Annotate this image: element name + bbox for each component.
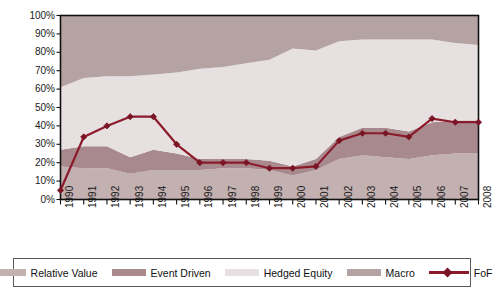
x-axis-tick-label: 1996 — [204, 185, 214, 207]
legend-swatch-icon — [347, 269, 381, 276]
x-axis-tick-label: 2008 — [483, 185, 493, 207]
legend-swatch-icon — [112, 269, 146, 276]
x-axis-tick-label: 2004 — [390, 185, 400, 207]
x-axis-tick-label: 1995 — [181, 185, 191, 207]
x-axis-tick-label: 1992 — [111, 185, 121, 207]
chart-legend: Relative ValueEvent DrivenHedged EquityM… — [13, 258, 471, 287]
legend-swatch-icon — [225, 269, 259, 276]
legend-swatch-icon — [0, 269, 26, 276]
x-axis-tick-label: 2006 — [437, 185, 447, 207]
x-axis-tick-label: 2002 — [344, 185, 354, 207]
x-axis-tick-label: 1991 — [88, 185, 98, 207]
x-axis-tick-label: 1997 — [228, 185, 238, 207]
legend-item-hedged-equity[interactable]: Hedged Equity — [225, 267, 333, 279]
legend-item-event-driven[interactable]: Event Driven — [112, 267, 211, 279]
x-axis-tick-label: 2003 — [367, 185, 377, 207]
legend-label: FoF — [474, 267, 493, 279]
legend-label: Event Driven — [151, 267, 211, 279]
x-axis: 1990199119921993199419951996199719981999… — [0, 0, 491, 250]
x-axis-tick-label: 2007 — [460, 185, 470, 207]
legend-label: Macro — [386, 267, 415, 279]
legend-line-marker-icon — [429, 267, 469, 278]
legend-label: Relative Value — [31, 267, 98, 279]
x-axis-tick-label: 2000 — [297, 185, 307, 207]
legend-item-fof[interactable]: FoF — [429, 267, 493, 279]
x-axis-tick-label: 1990 — [65, 185, 75, 207]
x-axis-tick-label: 1993 — [135, 185, 145, 207]
x-axis-tick-label: 1998 — [251, 185, 261, 207]
x-axis-tick-label: 2005 — [413, 185, 423, 207]
x-axis-tick-label: 2001 — [320, 185, 330, 207]
x-axis-tick-label: 1999 — [274, 185, 284, 207]
legend-label: Hedged Equity — [264, 267, 333, 279]
x-axis-tick-label: 1994 — [158, 185, 168, 207]
legend-item-macro[interactable]: Macro — [347, 267, 415, 279]
legend-item-relative-value[interactable]: Relative Value — [0, 267, 98, 279]
